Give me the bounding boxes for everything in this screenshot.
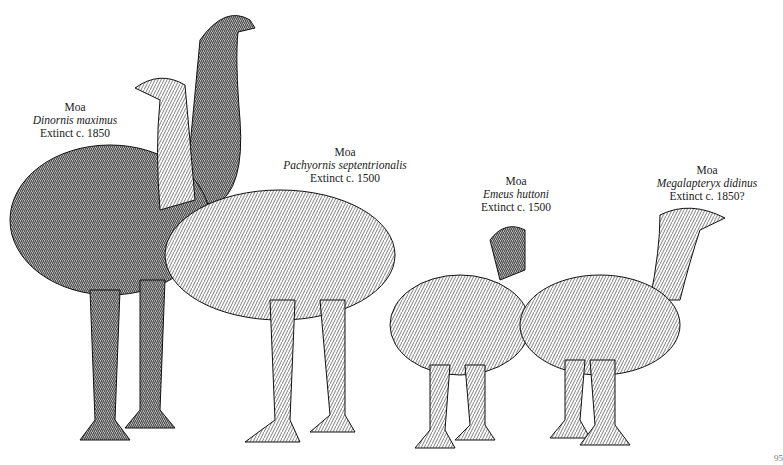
label-species: Pachyornis septentrionalis <box>262 159 428 172</box>
label-extinct: Extinct c. 1500 <box>262 172 428 185</box>
bird-pachyornis <box>135 78 395 442</box>
label-extinct: Extinct c. 1850? <box>632 190 782 203</box>
moa-illustration <box>0 0 783 465</box>
label-common: Moa <box>5 101 145 114</box>
page-number: 95 <box>774 453 783 463</box>
label-megalapteryx: Moa Megalapteryx didinus Extinct c. 1850… <box>632 164 782 203</box>
label-pachyornis: Moa Pachyornis septentrionalis Extinct c… <box>262 146 428 185</box>
label-common: Moa <box>632 164 782 177</box>
label-dinornis: Moa Dinornis maximus Extinct c. 1850 <box>5 101 145 140</box>
label-common: Moa <box>462 175 570 188</box>
label-common: Moa <box>262 146 428 159</box>
label-extinct: Extinct c. 1500 <box>462 201 570 214</box>
label-emeus: Moa Emeus huttoni Extinct c. 1500 <box>462 175 570 214</box>
bird-megalapteryx <box>520 208 725 445</box>
bird-emeus <box>390 227 530 448</box>
label-species: Megalapteryx didinus <box>632 177 782 190</box>
label-extinct: Extinct c. 1850 <box>5 127 145 140</box>
label-species: Dinornis maximus <box>5 114 145 127</box>
label-species: Emeus huttoni <box>462 188 570 201</box>
